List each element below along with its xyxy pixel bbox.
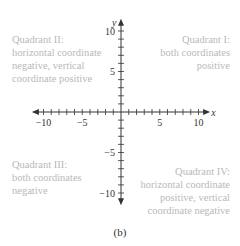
x-axis-left-arrow-icon [32, 109, 39, 115]
y-axis-up-arrow-icon [118, 19, 124, 26]
x-axis-right-arrow-icon [203, 109, 210, 115]
quadrant-3-label: Quadrant III: both coordinates negative [12, 158, 102, 197]
x-tick-label: −10 [36, 117, 52, 128]
quadrant-2-label: Quadrant II: horizontal coordinate negat… [12, 33, 112, 85]
y-axis-name: y [111, 17, 117, 28]
quadrant-4-line: horizontal coordinate [120, 178, 230, 191]
quadrant-2-line: coordinate positive [12, 72, 112, 85]
quadrant-1-label: Quadrant I: both coordinates positive [150, 33, 230, 72]
quadrant-4-line: coordinate negative [120, 204, 230, 217]
x-tick-label: −5 [77, 117, 88, 128]
quadrant-4-line: Quadrant IV: [120, 165, 230, 178]
quadrant-2-line: Quadrant II: [12, 33, 112, 46]
quadrant-4-label: Quadrant IV: horizontal coordinate posit… [120, 165, 230, 217]
x-tick-label: 5 [157, 117, 162, 128]
quadrant-3-line: negative [12, 184, 102, 197]
quadrant-2-line: horizontal coordinate [12, 46, 112, 59]
quadrant-3-line: Quadrant III: [12, 158, 102, 171]
x-tick-label: 10 [194, 117, 204, 128]
quadrant-3-line: both coordinates [12, 171, 102, 184]
quadrant-2-line: negative, vertical [12, 59, 112, 72]
quadrant-1-line: Quadrant I: [150, 33, 230, 46]
y-tick-label: −5 [104, 147, 115, 158]
quadrant-4-line: positive, vertical [120, 191, 230, 204]
x-axis-name: x [210, 107, 216, 118]
figure-caption: (b) [0, 226, 240, 238]
quadrant-1-line: both coordinates [150, 46, 230, 59]
quadrant-1-line: positive [150, 59, 230, 72]
